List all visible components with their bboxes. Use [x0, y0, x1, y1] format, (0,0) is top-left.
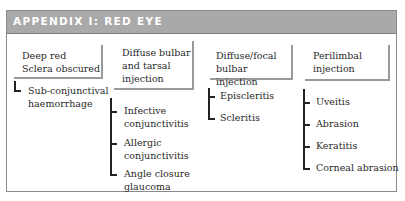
tree-branch — [208, 96, 215, 98]
category-box-deep-red: Deep red Sclera obscured — [14, 45, 103, 79]
category-label: Deep red Sclera obscured — [22, 49, 100, 75]
diagnosis-item: Allergic conjunctivitis — [124, 136, 189, 162]
tree-branch — [110, 143, 117, 145]
tree-branch — [303, 168, 310, 170]
category-label: Diffuse/focal bulbar injection — [216, 49, 291, 88]
diagnosis-item: Angle closure glaucoma — [124, 167, 190, 193]
diagnosis-item: Keratitis — [316, 139, 357, 152]
appendix-title: APPENDIX I: RED EYE — [13, 15, 163, 27]
diagnosis-item: Sub-conjunctival haemorrhage — [28, 84, 109, 110]
diagnosis-item: Infective conjunctivitis — [124, 104, 189, 130]
tree-branch — [208, 118, 215, 120]
tree-branch — [303, 124, 310, 126]
tree-branch — [110, 174, 117, 176]
category-box-diffuse-bulbar-tarsal: Diffuse bulbar and tarsal injection — [114, 41, 194, 90]
diagnosis-item: Uveitis — [316, 95, 350, 108]
tree-branch — [14, 90, 21, 92]
tree-branch — [303, 146, 310, 148]
category-box-diffuse-focal: Diffuse/focal bulbar injection — [210, 45, 293, 80]
tree-branch — [303, 102, 310, 104]
tree-branch — [110, 111, 117, 113]
category-label: Diffuse bulbar and tarsal injection — [122, 46, 191, 85]
diagnosis-item: Scleritis — [220, 111, 260, 124]
diagnosis-item: Corneal abrasion — [316, 161, 399, 174]
tree-connector — [110, 98, 112, 175]
diagnosis-item: Abrasion — [316, 117, 359, 130]
category-label: Perilimbal injection — [313, 49, 362, 75]
tree-connector — [208, 88, 210, 120]
diagnosis-item: Episcleritis — [220, 89, 274, 102]
category-box-perilimbal: Perilimbal injection — [305, 45, 390, 81]
appendix-header: APPENDIX I: RED EYE — [7, 11, 396, 34]
tree-connector — [303, 89, 305, 169]
